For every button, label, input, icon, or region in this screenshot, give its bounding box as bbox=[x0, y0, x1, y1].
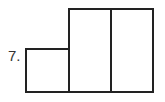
tall-rectangle-left bbox=[69, 9, 111, 92]
tall-rectangle-right bbox=[111, 9, 153, 92]
composite-shape-figure bbox=[0, 0, 165, 102]
small-square bbox=[26, 49, 69, 92]
